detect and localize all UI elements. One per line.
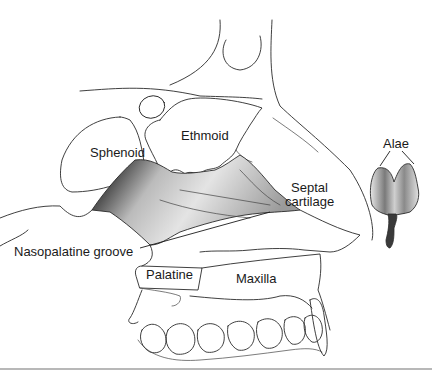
alae-illustration [370,151,418,248]
label-cartilage: cartilage [285,194,334,209]
label-septal: Septal [291,180,328,195]
septum-plate [92,155,300,245]
bottom-divider [0,368,432,370]
anatomy-figure: Sphenoid Ethmoid Septal cartilage Nasopa… [0,0,445,382]
maxilla-bone [142,245,330,330]
label-nasopalatine-groove: Nasopalatine groove [14,244,133,259]
label-alae: Alae [383,136,409,151]
label-maxilla: Maxilla [236,271,277,286]
label-sphenoid: Sphenoid [90,145,145,160]
septum-illustration: Sphenoid Ethmoid Septal cartilage Nasopa… [0,0,445,382]
label-ethmoid: Ethmoid [181,128,229,143]
label-palatine: Palatine [146,267,193,282]
sinus-oval [136,92,168,122]
teeth-row [138,299,327,361]
